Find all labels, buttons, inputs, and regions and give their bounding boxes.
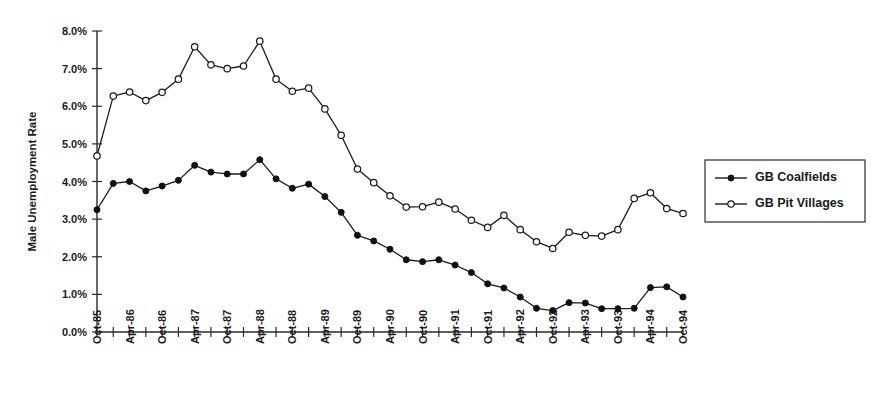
data-point-2 bbox=[191, 44, 197, 50]
data-point-1 bbox=[224, 171, 230, 177]
legend-label-1: GB Coalfields bbox=[755, 170, 837, 184]
data-point-1 bbox=[403, 257, 409, 263]
data-point-2 bbox=[257, 38, 263, 44]
x-axis-tick-label: Apr-86 bbox=[124, 309, 136, 344]
x-axis-tick-label: Apr-88 bbox=[254, 309, 266, 344]
data-point-2 bbox=[615, 226, 621, 232]
data-point-2 bbox=[598, 233, 604, 239]
data-point-2 bbox=[94, 153, 100, 159]
legend-box bbox=[705, 160, 865, 222]
data-point-2 bbox=[533, 239, 539, 245]
data-point-1 bbox=[452, 262, 458, 268]
unemployment-line-chart: 0.0%1.0%2.0%3.0%4.0%5.0%6.0%7.0%8.0%Male… bbox=[0, 0, 891, 416]
y-axis-tick-label: 7.0% bbox=[62, 63, 87, 75]
data-point-2 bbox=[501, 212, 507, 218]
data-point-1 bbox=[94, 207, 100, 213]
data-point-1 bbox=[110, 180, 116, 186]
data-point-2 bbox=[224, 65, 230, 71]
y-axis-tick-label: 0.0% bbox=[62, 326, 87, 338]
data-point-2 bbox=[631, 195, 637, 201]
x-axis-tick-label: Apr-89 bbox=[319, 309, 331, 344]
data-point-2 bbox=[110, 93, 116, 99]
data-point-2 bbox=[143, 97, 149, 103]
data-point-1 bbox=[517, 294, 523, 300]
data-point-1 bbox=[322, 194, 328, 200]
data-point-1 bbox=[354, 232, 360, 238]
x-axis-tick-label: Apr-87 bbox=[189, 309, 201, 344]
data-point-2 bbox=[582, 232, 588, 238]
y-axis-tick-label: 6.0% bbox=[62, 100, 87, 112]
x-axis-tick-label: Oct-85 bbox=[91, 310, 103, 344]
data-point-1 bbox=[338, 209, 344, 215]
data-point-2 bbox=[468, 217, 474, 223]
data-point-2 bbox=[208, 62, 214, 68]
data-point-2 bbox=[452, 206, 458, 212]
data-point-1 bbox=[534, 305, 540, 311]
data-point-1 bbox=[631, 305, 637, 311]
x-axis-tick-label: Apr-90 bbox=[384, 309, 396, 344]
x-axis-tick-label: Oct-88 bbox=[286, 310, 298, 344]
data-point-2 bbox=[305, 85, 311, 91]
data-point-2 bbox=[159, 89, 165, 95]
data-point-1 bbox=[468, 270, 474, 276]
data-point-1 bbox=[485, 281, 491, 287]
x-axis-tick-label: Oct-93 bbox=[612, 310, 624, 344]
y-axis-tick-label: 4.0% bbox=[62, 176, 87, 188]
x-axis-tick-label: Apr-94 bbox=[644, 308, 656, 344]
data-point-1 bbox=[501, 285, 507, 291]
y-axis-tick-label: 2.0% bbox=[62, 251, 87, 263]
data-point-2 bbox=[126, 89, 132, 95]
data-point-2 bbox=[354, 166, 360, 172]
data-point-1 bbox=[566, 300, 572, 306]
data-point-2 bbox=[289, 88, 295, 94]
data-point-1 bbox=[208, 169, 214, 175]
data-point-2 bbox=[240, 63, 246, 69]
x-axis-tick-label: Oct-86 bbox=[156, 310, 168, 344]
x-axis-tick-label: Oct-87 bbox=[221, 310, 233, 344]
x-axis-tick-label: Oct-90 bbox=[417, 310, 429, 344]
y-axis-tick-label: 8.0% bbox=[62, 25, 87, 37]
data-point-1 bbox=[127, 179, 133, 185]
data-point-2 bbox=[338, 132, 344, 138]
data-point-2 bbox=[647, 190, 653, 196]
data-point-1 bbox=[599, 306, 605, 312]
data-point-2 bbox=[403, 204, 409, 210]
data-point-1 bbox=[647, 285, 653, 291]
chart-figure: 0.0%1.0%2.0%3.0%4.0%5.0%6.0%7.0%8.0%Male… bbox=[0, 0, 891, 416]
data-point-1 bbox=[159, 183, 165, 189]
data-point-2 bbox=[419, 204, 425, 210]
data-point-1 bbox=[273, 176, 279, 182]
data-point-2 bbox=[517, 226, 523, 232]
data-point-1 bbox=[241, 171, 247, 177]
data-point-1 bbox=[387, 246, 393, 252]
x-axis-tick-label: Oct-92 bbox=[547, 310, 559, 344]
data-point-1 bbox=[664, 284, 670, 290]
legend-label-2: GB Pit Villages bbox=[755, 196, 844, 210]
data-point-2 bbox=[664, 205, 670, 211]
data-point-1 bbox=[306, 181, 312, 187]
data-point-2 bbox=[484, 224, 490, 230]
data-point-1 bbox=[550, 308, 556, 314]
data-point-2 bbox=[550, 245, 556, 251]
data-point-1 bbox=[680, 294, 686, 300]
data-point-1 bbox=[436, 257, 442, 263]
series-line-2 bbox=[97, 41, 683, 248]
legend-marker-1 bbox=[728, 175, 734, 181]
data-point-2 bbox=[175, 76, 181, 82]
y-axis-tick-label: 3.0% bbox=[62, 213, 87, 225]
data-point-2 bbox=[273, 76, 279, 82]
data-point-2 bbox=[566, 229, 572, 235]
y-axis-tick-label: 1.0% bbox=[62, 288, 87, 300]
data-point-1 bbox=[615, 306, 621, 312]
data-point-1 bbox=[289, 185, 295, 191]
x-axis-tick-label: Apr-92 bbox=[514, 309, 526, 344]
data-point-1 bbox=[143, 188, 149, 194]
data-point-2 bbox=[680, 210, 686, 216]
data-point-1 bbox=[371, 238, 377, 244]
x-axis-tick-label: Oct-91 bbox=[482, 310, 494, 344]
data-point-1 bbox=[192, 162, 198, 168]
data-point-2 bbox=[371, 179, 377, 185]
data-point-1 bbox=[257, 157, 263, 163]
x-axis-tick-label: Oct-89 bbox=[351, 310, 363, 344]
x-axis-tick-label: Apr-93 bbox=[579, 309, 591, 344]
